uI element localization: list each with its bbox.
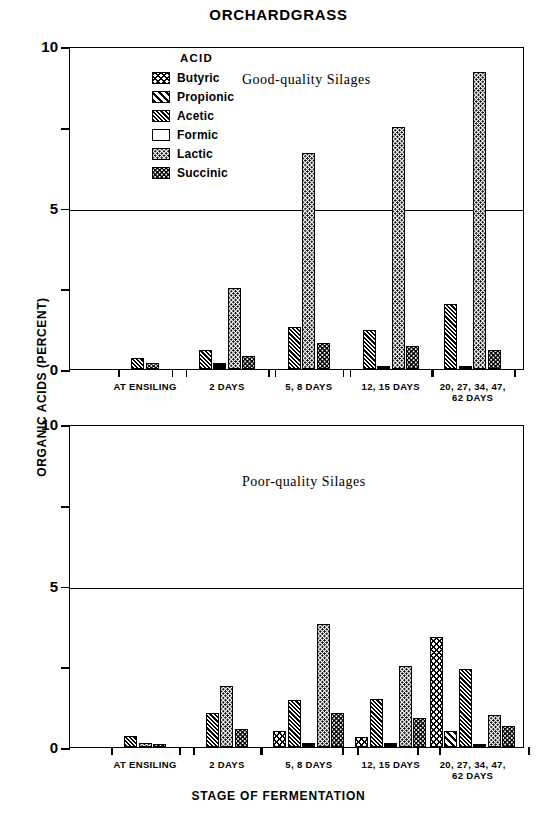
y-tick-label: 5 [12, 200, 58, 217]
legend-item-label: Acetic [177, 109, 214, 123]
x-tick [275, 369, 277, 377]
x-tick [186, 369, 188, 377]
legend-item-label: Butyric [177, 71, 220, 85]
y-axis-title: ORGANIC ACIDS (PERCENT) [35, 257, 49, 517]
x-tick [268, 369, 270, 377]
bar-butyric [273, 731, 286, 747]
legend-item-label: Lactic [177, 147, 213, 161]
x-tick [431, 369, 433, 377]
legend-item-propionic: Propionic [152, 87, 287, 106]
legend-item-butyric: Butyric [152, 68, 287, 87]
legend-item-acetic: Acetic [152, 106, 287, 125]
x-tick [350, 369, 352, 377]
x-tick [118, 369, 120, 377]
y-tick [61, 209, 70, 211]
legend-swatch-succinic-icon [152, 167, 170, 179]
bar-lactic [473, 72, 486, 369]
bar-acetic [444, 304, 457, 369]
bar-succinic [406, 346, 419, 369]
bar-lactic [220, 686, 233, 747]
y-tick-label: 0 [12, 361, 58, 378]
bar-acetic [288, 700, 301, 747]
x-tick [343, 369, 345, 377]
x-tick [179, 747, 181, 755]
bar-acetic [370, 699, 383, 747]
gridline-5 [70, 210, 523, 211]
legend-item-lactic: Lactic [152, 144, 287, 163]
x-tick [439, 747, 441, 755]
bar-lactic [317, 624, 330, 747]
y-tick-label: 10 [12, 38, 58, 55]
bar-lactic [399, 666, 412, 747]
bar-acetic [199, 350, 212, 369]
legend-swatch-acetic-icon [152, 110, 170, 122]
x-axis-title: STAGE OF FERMENTATION [0, 789, 557, 803]
x-tick [172, 369, 174, 377]
bar-formic [459, 366, 472, 369]
gridline-5 [70, 588, 523, 589]
bar-lactic [228, 288, 241, 369]
y-tick [61, 667, 70, 669]
legend-swatch-butyric-icon [152, 72, 170, 84]
legend: ACID ButyricPropionicAceticFormicLacticS… [152, 52, 287, 182]
x-tick [111, 747, 113, 755]
bar-succinic [488, 350, 501, 369]
bar-succinic [502, 726, 515, 747]
x-group-label: 20, 27, 34, 47, 62 DAYS [418, 759, 528, 781]
legend-item-label: Succinic [177, 166, 228, 180]
legend-swatch-formic-icon [152, 129, 170, 141]
x-group-label: 20, 27, 34, 47, 62 DAYS [418, 381, 528, 403]
legend-item-label: Formic [177, 128, 218, 142]
bar-succinic [242, 356, 255, 369]
legend-items: ButyricPropionicAceticFormicLacticSuccin… [152, 68, 287, 182]
bar-acetic [363, 330, 376, 369]
bar-propionic [444, 731, 457, 747]
legend-swatch-propionic-icon [152, 91, 170, 103]
bar-formic [473, 744, 486, 747]
bar-formic [213, 363, 226, 369]
bar-succinic [235, 729, 248, 747]
y-tick [61, 289, 70, 291]
legend-swatch-lactic-icon [152, 148, 170, 160]
panel-poor-quality-silages: 0510Poor-quality SilagesAT ENSILING2 DAY… [69, 425, 524, 748]
plot-area-bottom: 0510Poor-quality SilagesAT ENSILING2 DAY… [70, 426, 523, 747]
bar-succinic [317, 343, 330, 369]
y-tick [61, 748, 70, 750]
legend-item-formic: Formic [152, 125, 287, 144]
figure-title: ORCHARDGRASS [0, 6, 557, 23]
y-tick [61, 370, 70, 372]
y-tick [61, 587, 70, 589]
bar-formic [384, 743, 397, 747]
x-tick [357, 747, 359, 755]
legend-item-label: Propionic [177, 90, 234, 104]
bar-lactic [488, 715, 501, 747]
bar-succinic [331, 713, 344, 747]
y-tick [61, 47, 70, 49]
x-tick [260, 747, 262, 755]
bar-succinic [413, 718, 426, 747]
bar-formic [377, 366, 390, 369]
bar-acetic [124, 736, 137, 747]
bar-acetic [288, 327, 301, 369]
bar-succinic [153, 744, 166, 747]
y-tick [61, 425, 70, 427]
y-tick [61, 506, 70, 508]
x-tick [528, 747, 530, 755]
bar-formic [302, 743, 315, 747]
y-tick-label: 5 [12, 578, 58, 595]
bar-lactic [139, 743, 152, 747]
bar-lactic [392, 127, 405, 369]
plot-area-top: 0510Good-quality SilagesAT ENSILING2 DAY… [70, 48, 523, 369]
bar-lactic [302, 153, 315, 369]
panel-good-quality-silages: 0510Good-quality SilagesAT ENSILING2 DAY… [69, 47, 524, 370]
x-tick [193, 747, 195, 755]
x-tick [417, 747, 419, 755]
y-tick-label: 0 [12, 739, 58, 756]
figure-orchardgrass: ORCHARDGRASS ORGANIC ACIDS (PERCENT) STA… [0, 0, 557, 828]
x-tick [514, 369, 516, 377]
bar-acetic [206, 713, 219, 747]
bar-butyric [430, 637, 443, 747]
x-tick [342, 747, 344, 755]
y-tick-label: 10 [12, 416, 58, 433]
bar-acetic [131, 358, 144, 369]
